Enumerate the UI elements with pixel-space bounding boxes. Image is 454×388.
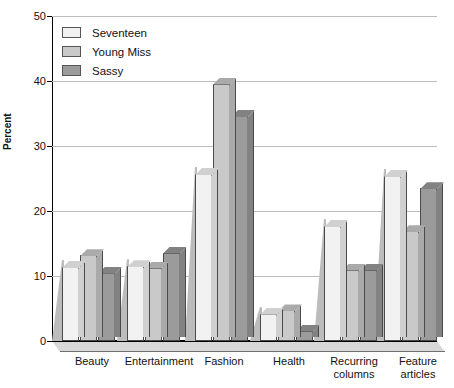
legend-item-sassy: Sassy [62, 62, 182, 79]
bar-side-face [376, 265, 383, 338]
bar-group-feature-articles [384, 16, 440, 341]
bar-seventeen-entertainment [127, 266, 144, 341]
y-tick-40: 40 [18, 75, 46, 87]
bar-side-face [78, 262, 85, 337]
bar-group-health [260, 16, 316, 341]
bar-side-face [143, 261, 150, 337]
bar-side-face [358, 265, 365, 338]
y-tick-30: 30 [18, 140, 46, 152]
x-axis-tick-labels: BeautyEntertainmentFashionHealthRecurrin… [52, 355, 445, 388]
y-tickmark-50 [47, 16, 52, 17]
chart-floor-back-edge [60, 351, 445, 352]
bar-chart: Percent 01020304050 BeautyEntertainmentF… [0, 0, 454, 388]
legend-swatch-icon [62, 65, 81, 76]
x-tick-label-line2: articles [373, 368, 454, 381]
y-tickmark-40 [47, 81, 52, 82]
bar-side-face [418, 226, 425, 337]
bar-side-face [340, 221, 347, 337]
bar-group-recurring-columns [324, 16, 380, 341]
y-tick-10: 10 [18, 270, 46, 282]
y-tick-20: 20 [18, 205, 46, 217]
bar-seventeen-recurring-columns [324, 226, 341, 341]
y-axis-tick-labels: 01020304050 [16, 0, 46, 388]
legend-label: Sassy [92, 65, 123, 77]
bar-side-face [161, 263, 168, 337]
legend-swatch-icon [62, 27, 81, 38]
bar-side-face [96, 250, 103, 337]
y-tickmark-0 [47, 341, 52, 342]
legend-label: Young Miss [92, 46, 151, 58]
x-tick-label-5: Featurearticles [373, 355, 454, 380]
bar-side-face [179, 248, 186, 337]
x-tick-label-line1: Feature [373, 355, 454, 368]
y-tickmark-20 [47, 211, 52, 212]
bar-group-fashion [195, 16, 251, 341]
bar-seventeen-fashion [195, 174, 212, 341]
legend-label: Seventeen [92, 27, 147, 39]
bar-seventeen-feature-articles [384, 176, 401, 341]
bar-side-face [436, 183, 443, 337]
bar-side-face [400, 171, 407, 337]
bar-side-face [229, 79, 236, 337]
bar-seventeen-beauty [62, 267, 79, 341]
chart-floor-front-edge [52, 341, 437, 342]
y-axis-title: Percent [2, 113, 13, 150]
bar-side-face [247, 111, 254, 337]
gridline-40 [52, 81, 437, 82]
y-tick-50: 50 [18, 10, 46, 22]
y-tickmark-30 [47, 146, 52, 147]
bar-side-face [114, 268, 121, 337]
legend-item-young-miss: Young Miss [62, 43, 182, 60]
bar-seventeen-health [260, 314, 277, 341]
bar-side-face [211, 169, 218, 337]
gridline-50 [52, 16, 437, 17]
y-tick-0: 0 [18, 335, 46, 347]
legend-swatch-icon [62, 46, 81, 57]
legend-item-seventeen: Seventeen [62, 24, 182, 41]
legend: SeventeenYoung MissSassy [62, 24, 182, 81]
y-tickmark-10 [47, 276, 52, 277]
